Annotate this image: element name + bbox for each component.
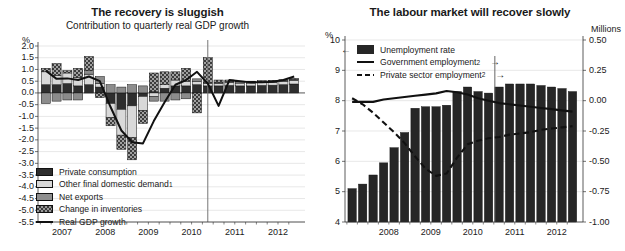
y-tick-label-right: -0.25 bbox=[589, 126, 610, 136]
legend-label: Other final domestic demand bbox=[59, 179, 169, 189]
y-tick-label-right: 0.25 bbox=[589, 65, 607, 75]
y-tick-label-right: -0.75 bbox=[589, 186, 610, 196]
x-tick-label: 2011 bbox=[215, 227, 255, 237]
legend-swatch-dark-icon bbox=[36, 168, 53, 176]
legend-swatch-light-icon bbox=[36, 180, 53, 188]
y-tick-label: -3.5 bbox=[0, 170, 34, 180]
y-tick-label: 1.5 bbox=[0, 52, 34, 62]
arrow-left-icon: ← bbox=[341, 45, 351, 55]
legend-label: Private consumption bbox=[59, 167, 137, 177]
legend-item: ←Unemployment rate bbox=[341, 44, 505, 55]
legend-label: Private sector employment bbox=[380, 70, 482, 80]
legend-swatch-bar-black-icon bbox=[357, 45, 374, 54]
y-tick-label: 2.0 bbox=[0, 41, 34, 51]
unemployment-bars bbox=[348, 84, 577, 222]
y-tick-label: 0.5 bbox=[0, 76, 34, 86]
y-tick-label: -1.5 bbox=[0, 123, 34, 133]
y-tick-label: -2.0 bbox=[0, 134, 34, 144]
legend-item: Private consumption bbox=[36, 166, 173, 177]
stacked-bars-recovery bbox=[41, 57, 298, 160]
y-tick-label-left: 7 bbox=[315, 126, 340, 136]
legend-footnote-marker: 2 bbox=[476, 59, 480, 66]
legend-item: Government employment2→ bbox=[341, 57, 505, 68]
x-tick-label: 2008 bbox=[85, 227, 125, 237]
legend-swatch-checker-icon bbox=[36, 205, 53, 213]
y-tick-label: -2.5 bbox=[0, 146, 34, 156]
y-tick-label: -3.0 bbox=[0, 158, 34, 168]
arrow-right-icon: → bbox=[490, 57, 500, 67]
legend-swatch-dash-line-icon bbox=[357, 71, 374, 79]
y-tick-label-left: 6 bbox=[315, 156, 340, 166]
y-tick-label: 1.0 bbox=[0, 64, 34, 74]
y-tick-label: -4.0 bbox=[0, 181, 34, 191]
chart-canvas-labour bbox=[315, 0, 625, 251]
legend-footnote-marker: 1 bbox=[169, 181, 173, 188]
legend-label: Change in inventories bbox=[59, 204, 142, 214]
legend-swatch-solid-line-icon bbox=[357, 58, 374, 66]
legend-label: Government employment bbox=[380, 57, 476, 67]
x-tick-label: 2009 bbox=[411, 227, 451, 237]
legend-footnote-marker: 2 bbox=[482, 71, 486, 78]
y-tick-label: -0.5 bbox=[0, 99, 34, 109]
legend-label: Net exports bbox=[59, 192, 103, 202]
x-tick-label: 2012 bbox=[537, 227, 577, 237]
x-tick-label: 2010 bbox=[172, 227, 212, 237]
legend-swatch-mid-icon bbox=[36, 193, 53, 201]
x-tick-label: 2008 bbox=[369, 227, 409, 237]
legend-labour: ←Unemployment rateGovernment employment2… bbox=[341, 44, 505, 82]
x-tick-label: 2007 bbox=[42, 227, 82, 237]
legend-item: Change in inventories bbox=[36, 204, 173, 215]
arrow-right-icon: → bbox=[495, 70, 505, 80]
x-tick-label: 2009 bbox=[128, 227, 168, 237]
legend-item: Other final domestic demand1 bbox=[36, 179, 173, 190]
legend-item: Net exports bbox=[36, 191, 173, 202]
y-tick-label-left: 10 bbox=[315, 35, 340, 45]
y-tick-label: 0.0 bbox=[0, 87, 34, 97]
y-tick-label: -1.0 bbox=[0, 111, 34, 121]
legend-item: Private sector employment2→ bbox=[341, 69, 505, 80]
y-tick-label-left: 8 bbox=[315, 95, 340, 105]
y-tick-label-left: 9 bbox=[315, 65, 340, 75]
legend-item: Real GDP growth bbox=[36, 216, 173, 227]
y-tick-label-right: 0.00 bbox=[589, 95, 607, 105]
x-tick-label: 2010 bbox=[453, 227, 493, 237]
y-tick-label: -4.5 bbox=[0, 193, 34, 203]
legend-label: Unemployment rate bbox=[380, 45, 455, 55]
y-tick-label-right: -0.50 bbox=[589, 156, 610, 166]
y-tick-label: -5.5 bbox=[0, 217, 34, 227]
y-tick-label: -5.0 bbox=[0, 205, 34, 215]
legend-label: Real GDP growth bbox=[59, 217, 126, 227]
legend-swatch-solid-line-icon bbox=[36, 218, 53, 226]
gdp-growth-line bbox=[46, 71, 294, 144]
chart-panel-labour: The labour market will recover slowly % … bbox=[315, 0, 625, 251]
x-tick-label: 2011 bbox=[495, 227, 535, 237]
y-tick-label-right: 0.50 bbox=[589, 35, 607, 45]
x-tick-label: 2012 bbox=[258, 227, 298, 237]
chart-panel-recovery: The recovery is sluggish Contribution to… bbox=[0, 0, 315, 251]
y-tick-label-left: 5 bbox=[315, 186, 340, 196]
legend-recovery: Private consumptionOther final domestic … bbox=[36, 166, 173, 229]
y-tick-label-left: 4 bbox=[315, 217, 340, 227]
y-tick-label-right: -1.00 bbox=[589, 217, 610, 227]
charts-page: The recovery is sluggish Contribution to… bbox=[0, 0, 625, 251]
